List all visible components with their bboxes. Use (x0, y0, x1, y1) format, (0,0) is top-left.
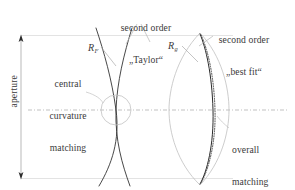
label-overall-line2: matching (232, 177, 292, 188)
label-taylor-line1: second order (100, 23, 192, 34)
label-central-line1: central (30, 79, 106, 90)
label-aperture: aperture (9, 59, 20, 123)
label-bestfit-line1: second order (196, 35, 292, 46)
label-radius-right: Rg (168, 40, 177, 51)
label-second-order-best-fit: second order „best fit“ (196, 14, 292, 99)
label-overall-line1: overall (232, 145, 292, 156)
label-second-order-taylor: second order „Taylor“ (100, 2, 192, 87)
leader-overall-matching (217, 116, 229, 128)
label-central-curvature-matching: central curvature matching (30, 58, 106, 175)
label-radius-left-subscript: F (94, 47, 98, 54)
label-radius-left: RF (88, 42, 98, 53)
diagram-figure: second order „Taylor“ second order „best… (0, 0, 295, 190)
label-taylor-line2: „Taylor“ (100, 55, 192, 66)
label-overall-matching: overall matching (232, 124, 292, 190)
label-central-line3: matching (30, 143, 106, 154)
aperture-dimension-arrow (19, 35, 24, 180)
label-bestfit-line2: „best fit“ (196, 67, 292, 78)
label-radius-right-subscript: g (174, 45, 177, 52)
label-central-line2: curvature (30, 111, 106, 122)
